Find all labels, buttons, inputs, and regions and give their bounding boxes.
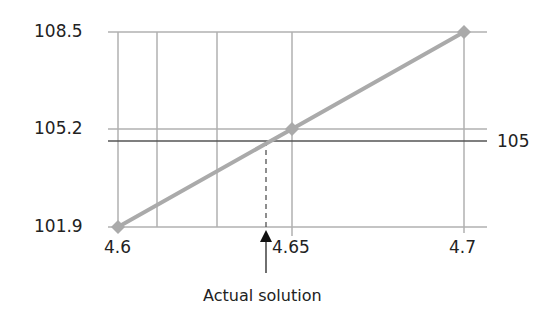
x-tick-4-65: 4.65: [272, 237, 310, 257]
y-tick-101-9: 101.9: [34, 216, 83, 236]
chart-plot: [0, 0, 550, 311]
x-tick-4-6: 4.6: [104, 237, 131, 257]
x-tick-4-7: 4.7: [449, 237, 476, 257]
arrow-up-icon: [260, 230, 272, 242]
y-tick-108-5: 108.5: [34, 21, 83, 41]
y-tick-105-2: 105.2: [34, 118, 83, 138]
annotation-label: Actual solution: [203, 286, 322, 305]
reference-label-105: 105: [497, 131, 529, 151]
